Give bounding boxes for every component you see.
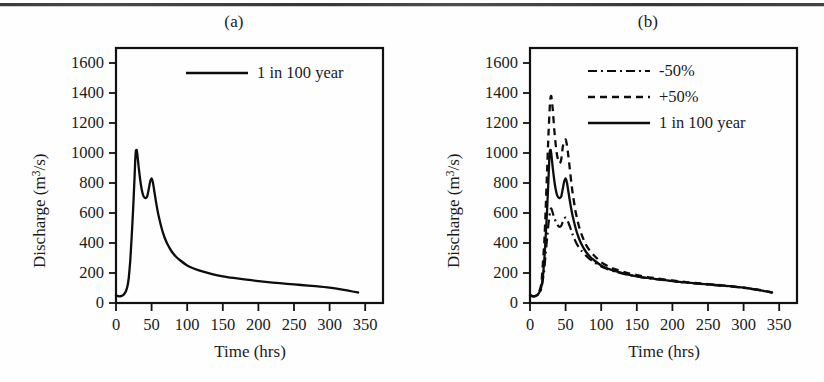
y-tick-label-a-1200: 1200: [44, 113, 104, 133]
y-tick-label-a-400: 400: [44, 233, 104, 253]
legend-label-b-2: 1 in 100 year: [659, 115, 746, 132]
legend-b: -50%+50%1 in 100 year: [588, 58, 746, 136]
legend-entry-b-0[interactable]: -50%: [588, 58, 746, 84]
y-tick-label-b-0: 0: [458, 293, 518, 313]
legend-entry-b-2[interactable]: 1 in 100 year: [588, 110, 746, 136]
legend-line-sample-dashdot-icon: [588, 64, 650, 78]
y-tick-label-b-1200: 1200: [458, 113, 518, 133]
legend-entry-a-0[interactable]: 1 in 100 year: [186, 60, 344, 86]
x-tick-label-a-50: 50: [143, 315, 160, 335]
y-tick-label-a-1600: 1600: [44, 53, 104, 73]
y-tick-label-a-1400: 1400: [44, 83, 104, 103]
y-tick-label-a-200: 200: [44, 263, 104, 283]
x-tick-label-a-300: 300: [317, 315, 342, 335]
y-tick-label-b-200: 200: [458, 263, 518, 283]
y-tick-label-b-600: 600: [458, 203, 518, 223]
series-b-1-in-100-year: [530, 150, 772, 296]
x-tick-label-b-200: 200: [660, 315, 685, 335]
x-tick-label-a-0: 0: [112, 315, 120, 335]
x-tick-label-b-50: 50: [557, 315, 574, 335]
series-a-1-in-100-year: [116, 150, 358, 296]
x-tick-label-b-0: 0: [526, 315, 534, 335]
figure-root: (a) Discharge (m3/s) Time (hrs) 1 in 100…: [0, 0, 824, 382]
chart-panel-a: (a) Discharge (m3/s) Time (hrs) 1 in 100…: [0, 0, 412, 382]
legend-line-sample-dashed-icon: [588, 90, 650, 104]
series-b--50-: [530, 208, 772, 296]
legend-label-a-0: 1 in 100 year: [257, 65, 344, 82]
y-tick-label-a-600: 600: [44, 203, 104, 223]
plot-frame-a: [116, 48, 383, 303]
y-tick-label-b-1000: 1000: [458, 143, 518, 163]
x-tick-label-b-100: 100: [589, 315, 614, 335]
y-tick-label-a-1000: 1000: [44, 143, 104, 163]
x-tick-label-b-300: 300: [731, 315, 756, 335]
y-tick-label-b-1400: 1400: [458, 83, 518, 103]
x-tick-label-b-150: 150: [624, 315, 649, 335]
legend-line-sample-solid-icon: [186, 66, 248, 80]
y-tick-label-b-800: 800: [458, 173, 518, 193]
legend-label-b-0: -50%: [659, 63, 695, 80]
legend-entry-b-1[interactable]: +50%: [588, 84, 746, 110]
x-tick-label-b-250: 250: [696, 315, 721, 335]
legend-label-b-1: +50%: [659, 89, 699, 106]
y-tick-label-a-800: 800: [44, 173, 104, 193]
x-tick-label-a-250: 250: [282, 315, 307, 335]
x-tick-label-a-100: 100: [175, 315, 200, 335]
x-tick-label-a-350: 350: [353, 315, 378, 335]
y-tick-label-b-400: 400: [458, 233, 518, 253]
legend-line-sample-solid-icon: [588, 116, 650, 130]
x-tick-label-a-200: 200: [246, 315, 271, 335]
x-tick-label-b-350: 350: [767, 315, 792, 335]
legend-a: 1 in 100 year: [186, 60, 344, 86]
x-tick-label-a-150: 150: [210, 315, 235, 335]
chart-panel-b: (b) Discharge (m3/s) Time (hrs) -50%+50%…: [412, 0, 824, 382]
y-tick-label-a-0: 0: [44, 293, 104, 313]
y-tick-label-b-1600: 1600: [458, 53, 518, 73]
